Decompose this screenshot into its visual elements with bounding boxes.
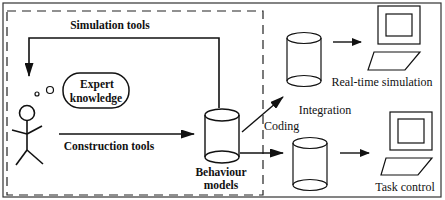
diagram-canvas: Simulation tools Expert knowledge Constr… bbox=[0, 0, 445, 200]
user-stick-figure-icon bbox=[12, 106, 43, 166]
thought-dot-large bbox=[47, 87, 54, 94]
behaviour-models-cylinder-icon bbox=[205, 109, 239, 163]
real-time-simulation-label: Real-time simulation bbox=[332, 75, 433, 89]
expert-knowledge-line2: knowledge bbox=[70, 92, 122, 105]
behaviour-models-line2: models bbox=[204, 179, 239, 191]
real-time-computer-icon bbox=[368, 6, 420, 70]
expert-knowledge-bubble: Expert knowledge bbox=[63, 73, 129, 108]
simulation-db-cylinder-icon bbox=[287, 33, 321, 87]
simulation-tools-label: Simulation tools bbox=[70, 19, 150, 31]
behaviour-models-line1: Behaviour bbox=[195, 166, 246, 178]
expert-knowledge-line1: Expert bbox=[80, 78, 114, 91]
coding-label: Coding bbox=[264, 119, 299, 133]
task-control-label: Task control bbox=[375, 180, 435, 194]
thought-dot-small bbox=[35, 92, 39, 96]
task-db-cylinder-icon bbox=[293, 138, 327, 191]
simulation-tools-arrow bbox=[29, 38, 219, 108]
integration-label: Integration bbox=[299, 103, 352, 117]
construction-tools-label: Construction tools bbox=[64, 140, 155, 152]
task-control-computer-icon bbox=[381, 112, 432, 175]
